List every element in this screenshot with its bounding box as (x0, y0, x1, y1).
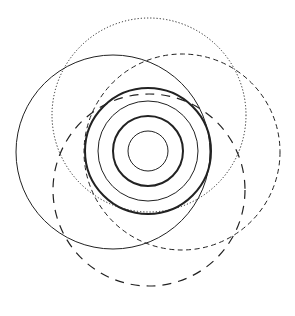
circles-diagram (0, 0, 295, 316)
long-dashed-circle (53, 94, 245, 286)
ring-1 (128, 131, 168, 171)
dotted-circle (52, 18, 246, 212)
ring-4 (85, 88, 211, 214)
concentric-circles-group (85, 88, 211, 214)
outer-circles-group (16, 18, 280, 286)
ring-2 (113, 116, 183, 186)
